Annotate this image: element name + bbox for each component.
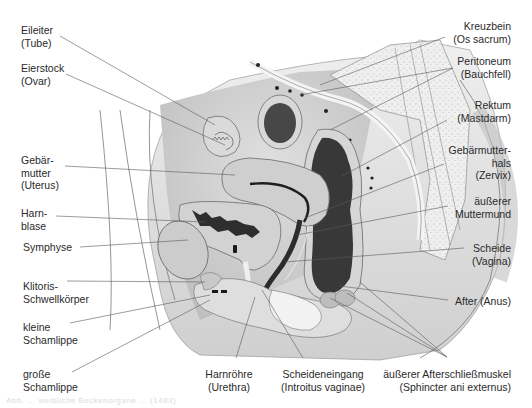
label-line: Scheide (472, 242, 511, 255)
label-line: Eileiter (21, 24, 53, 37)
figure-caption: Abb. … weibliche Beckenorgane … (1483) (6, 396, 176, 405)
label-line: äußerer (455, 195, 511, 208)
label-grosse-schamlippe: große Schamlippe (23, 368, 78, 393)
label-line: Rektum (457, 99, 511, 112)
label-line: Gebär- (21, 154, 59, 167)
label-line: (Vagina) (472, 255, 511, 268)
pelvis-cross-section-diagram (0, 0, 532, 408)
label-line: (Urethra) (194, 381, 264, 394)
label-line: mutter (21, 167, 59, 180)
label-symphyse: Symphyse (23, 241, 72, 254)
label-line: Harn- (21, 207, 47, 220)
label-line: Peritoneum (457, 55, 511, 68)
label-line: (Bauchfell) (457, 68, 511, 81)
label-gebaermutter: Gebär- mutter (Uterus) (21, 154, 59, 192)
label-line: (Tube) (21, 37, 53, 50)
label-line: Schwellkörper (23, 293, 89, 306)
label-scheide: Scheide (Vagina) (472, 242, 511, 267)
label-line: Muttermund (455, 208, 511, 221)
label-zervix: Gebärmutter- hals (Zervix) (449, 144, 511, 182)
label-harnblase: Harn- blase (21, 207, 47, 232)
label-line: (Introitus vaginae) (268, 381, 378, 394)
label-line: Schamlippe (23, 334, 78, 347)
label-line: (Uterus) (21, 179, 59, 192)
label-line: äußerer Afterschließmuskel (383, 368, 511, 381)
label-kleine-schamlippe: kleine Schamlippe (23, 321, 78, 346)
label-klitoris: Klitoris- Schwellkörper (23, 280, 89, 305)
label-line: (Ovar) (21, 75, 64, 88)
label-line: Schamlippe (23, 381, 78, 394)
label-line: Gebärmutter- (449, 144, 511, 157)
label-rektum: Rektum (Mastdarm) (457, 99, 511, 124)
label-sphincter: äußerer Afterschließmuskel (Sphincter an… (383, 368, 511, 393)
label-harnroehre: Harnröhre (Urethra) (194, 368, 264, 393)
label-eierstock: Eierstock (Ovar) (21, 62, 64, 87)
label-line: Kreuzbein (453, 20, 511, 33)
label-scheideneingang: Scheideneingang (Introitus vaginae) (268, 368, 378, 393)
label-line: kleine (23, 321, 78, 334)
label-line: große (23, 368, 78, 381)
label-line: Harnröhre (194, 368, 264, 381)
label-line: Klitoris- (23, 280, 89, 293)
sigmoid-colon (258, 95, 302, 149)
label-line: (Os sacrum) (453, 33, 511, 46)
label-line: After (Anus) (455, 295, 511, 308)
label-line: (Mastdarm) (457, 112, 511, 125)
label-line: Scheideneingang (268, 368, 378, 381)
label-line: Eierstock (21, 62, 64, 75)
label-muttermund: äußerer Muttermund (455, 195, 511, 220)
label-line: Symphyse (23, 241, 72, 254)
label-kreuzbein: Kreuzbein (Os sacrum) (453, 20, 511, 45)
label-peritoneum: Peritoneum (Bauchfell) (457, 55, 511, 80)
label-line: (Sphincter ani externus) (383, 381, 511, 394)
label-line: hals (449, 157, 511, 170)
label-after: After (Anus) (455, 295, 511, 308)
label-line: blase (21, 220, 47, 233)
label-eileiter: Eileiter (Tube) (21, 24, 53, 49)
label-line: (Zervix) (449, 169, 511, 182)
